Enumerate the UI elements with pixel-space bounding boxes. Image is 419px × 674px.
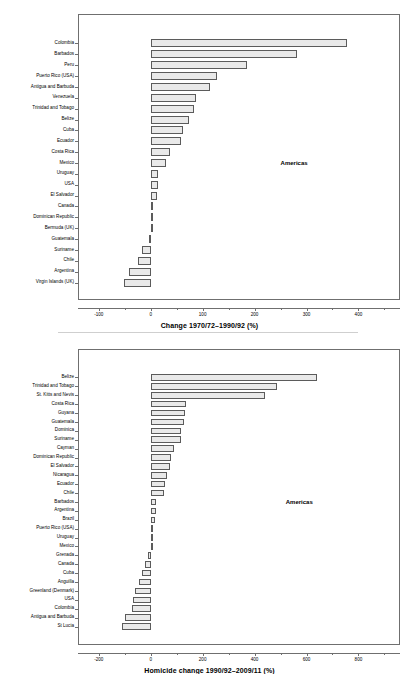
- category-tick: [75, 431, 78, 432]
- category-label: Guatemala: [52, 420, 74, 425]
- bar: [151, 490, 164, 497]
- category-label: Dominican Republic: [33, 215, 74, 220]
- chart-annotation-bottom: Americas: [286, 499, 313, 505]
- category-label: Grenada: [56, 553, 74, 558]
- bar: [148, 552, 151, 559]
- category-label: Puerto Rico (USA): [36, 526, 74, 531]
- category-tick: [75, 546, 78, 547]
- category-label: Costa Rica: [52, 150, 74, 155]
- x-axis-tick-label: 300: [295, 312, 319, 317]
- category-tick: [75, 538, 78, 539]
- category-label: Mexico: [59, 161, 74, 166]
- x-axis-minor-tick: [125, 653, 126, 655]
- x-axis-tick-label: -200: [87, 657, 111, 662]
- bar: [151, 181, 158, 189]
- bar: [151, 116, 189, 124]
- category-tick: [75, 261, 78, 262]
- x-axis-tick-label: -100: [87, 312, 111, 317]
- x-axis-line: [78, 653, 400, 654]
- category-label: Brazil: [63, 517, 75, 522]
- bar: [151, 472, 167, 479]
- bar: [125, 614, 151, 621]
- category-tick: [75, 573, 78, 574]
- category-label: Trinidad and Tobago: [32, 384, 74, 389]
- category-label: Greenland (Denmark): [30, 589, 74, 594]
- x-axis-tick-label: 200: [191, 657, 215, 662]
- category-tick: [75, 484, 78, 485]
- bar: [151, 517, 156, 524]
- category-label: Canada: [58, 562, 74, 567]
- category-tick: [75, 152, 78, 153]
- x-axis-tick: [255, 308, 256, 311]
- bar: [151, 50, 297, 58]
- category-label: St. Kitts and Nevis: [36, 393, 74, 398]
- x-axis-tick: [203, 308, 204, 311]
- category-label: Trinidad and Tobago: [32, 106, 74, 111]
- x-axis-minor-tick: [125, 308, 126, 310]
- category-label: Bermuda (UK): [45, 226, 74, 231]
- bar: [149, 235, 151, 243]
- category-label: Belize: [61, 117, 74, 122]
- bar: [151, 383, 277, 390]
- category-tick: [75, 404, 78, 405]
- category-tick: [75, 582, 78, 583]
- category-label: Mexico: [59, 544, 74, 549]
- category-tick: [75, 564, 78, 565]
- bar: [151, 508, 156, 515]
- category-tick: [75, 555, 78, 556]
- category-tick: [75, 591, 78, 592]
- category-tick: [75, 493, 78, 494]
- bar: [151, 192, 158, 200]
- category-label: El Salvador: [51, 464, 75, 469]
- bar: [151, 61, 247, 69]
- bar: [142, 246, 150, 254]
- category-tick: [75, 87, 78, 88]
- category-tick: [75, 272, 78, 273]
- category-tick: [75, 529, 78, 530]
- category-tick: [75, 475, 78, 476]
- category-tick: [75, 239, 78, 240]
- category-tick: [75, 449, 78, 450]
- category-tick: [75, 283, 78, 284]
- bar: [151, 224, 153, 232]
- category-label: Cuba: [63, 128, 74, 133]
- category-tick: [75, 54, 78, 55]
- category-tick: [75, 196, 78, 197]
- category-label: Cayman: [57, 446, 74, 451]
- category-tick: [75, 76, 78, 77]
- category-label: Virgin Islands (UK): [36, 280, 74, 285]
- category-label: Colombia: [55, 606, 74, 611]
- category-tick: [75, 98, 78, 99]
- x-axis-tick-label: 0: [139, 312, 163, 317]
- category-label: Antigua and Barbuda: [31, 85, 74, 90]
- category-label: St Lucia: [57, 624, 74, 629]
- category-label: Canada: [58, 204, 74, 209]
- category-label: Cuba: [63, 571, 74, 576]
- category-label: Antigua and Barbuda: [31, 615, 74, 620]
- category-tick: [75, 395, 78, 396]
- category-tick: [75, 65, 78, 66]
- bar: [151, 374, 317, 381]
- bar: [151, 39, 347, 47]
- category-label: USA: [65, 182, 74, 187]
- category-label: Colombia: [55, 41, 74, 46]
- x-axis-minor-tick: [384, 308, 385, 310]
- category-tick: [75, 413, 78, 414]
- bar: [151, 170, 159, 178]
- category-label: Venezuela: [53, 95, 74, 100]
- category-label: Chile: [64, 258, 74, 263]
- bar: [151, 525, 153, 532]
- x-axis-tick: [307, 653, 308, 656]
- x-axis-title-top: Change 1970/72–1990/92 (%): [0, 322, 419, 329]
- category-tick: [75, 141, 78, 142]
- category-tick: [75, 120, 78, 121]
- category-label: Argentina: [54, 508, 74, 513]
- category-tick: [75, 250, 78, 251]
- bar: [151, 137, 181, 145]
- x-axis-tick-label: 200: [243, 312, 267, 317]
- x-axis-tick-label: 400: [346, 312, 370, 317]
- x-axis-minor-tick: [229, 653, 230, 655]
- category-label: Anguilla: [58, 580, 74, 585]
- bar: [145, 561, 151, 568]
